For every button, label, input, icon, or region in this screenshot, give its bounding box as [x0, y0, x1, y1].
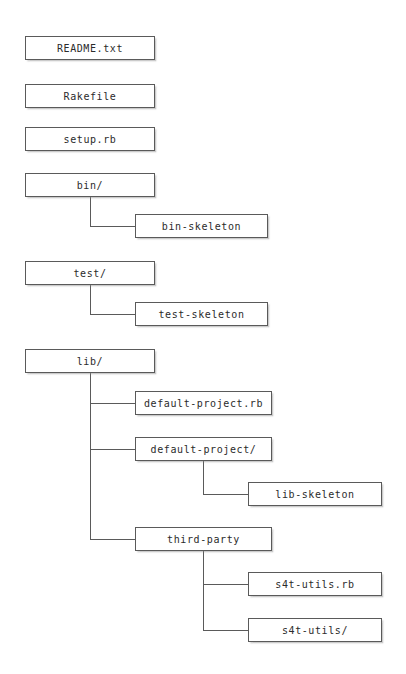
- tree-node-label: s4t-utils.rb: [275, 580, 354, 590]
- tree-node-default-project-dir[interactable]: default-project/: [135, 437, 272, 461]
- tree-node-third-party[interactable]: third-party: [135, 527, 272, 551]
- tree-node-lib-dir[interactable]: lib/: [25, 349, 155, 373]
- edge-tp-to-s4t-utils-dir: [203, 551, 248, 630]
- edge-dp-to-lib-skeleton: [203, 461, 248, 494]
- tree-node-s4t-utils-rb[interactable]: s4t-utils.rb: [248, 572, 382, 596]
- tree-node-label: lib/: [77, 357, 103, 367]
- directory-tree-diagram: README.txtRakefilesetup.rbbin/bin-skelet…: [0, 0, 406, 674]
- edge-lib-to-third-party: [90, 373, 135, 539]
- edge-tp-to-s4t-utils-rb: [203, 551, 248, 584]
- tree-node-label: third-party: [167, 535, 240, 545]
- tree-node-label: bin/: [77, 181, 103, 191]
- tree-node-readme[interactable]: README.txt: [25, 36, 155, 60]
- tree-node-setup-rb[interactable]: setup.rb: [25, 127, 155, 151]
- tree-node-label: README.txt: [57, 44, 123, 54]
- tree-node-label: Rakefile: [64, 92, 117, 102]
- tree-node-label: test/: [73, 269, 106, 279]
- tree-node-bin-skeleton[interactable]: bin-skeleton: [135, 214, 268, 238]
- tree-node-default-project-rb[interactable]: default-project.rb: [135, 391, 272, 415]
- edge-lib-to-default-project-dir: [90, 373, 135, 449]
- tree-node-label: s4t-utils/: [282, 626, 348, 636]
- edge-bin-to-bin-skeleton: [90, 197, 135, 226]
- tree-node-label: bin-skeleton: [162, 222, 241, 232]
- tree-node-label: default-project/: [151, 445, 257, 455]
- edge-lib-to-default-project-rb: [90, 373, 135, 403]
- tree-node-label: setup.rb: [64, 135, 117, 145]
- edge-test-to-test-skeleton: [90, 285, 135, 314]
- tree-node-test-dir[interactable]: test/: [25, 261, 155, 285]
- tree-node-s4t-utils-dir[interactable]: s4t-utils/: [248, 618, 382, 642]
- tree-node-rakefile[interactable]: Rakefile: [25, 84, 155, 108]
- tree-node-lib-skeleton[interactable]: lib-skeleton: [248, 482, 382, 506]
- tree-node-label: test-skeleton: [158, 310, 244, 320]
- tree-node-label: lib-skeleton: [275, 490, 354, 500]
- tree-node-bin-dir[interactable]: bin/: [25, 173, 155, 197]
- tree-node-test-skeleton[interactable]: test-skeleton: [135, 302, 268, 326]
- tree-node-label: default-project.rb: [144, 399, 263, 409]
